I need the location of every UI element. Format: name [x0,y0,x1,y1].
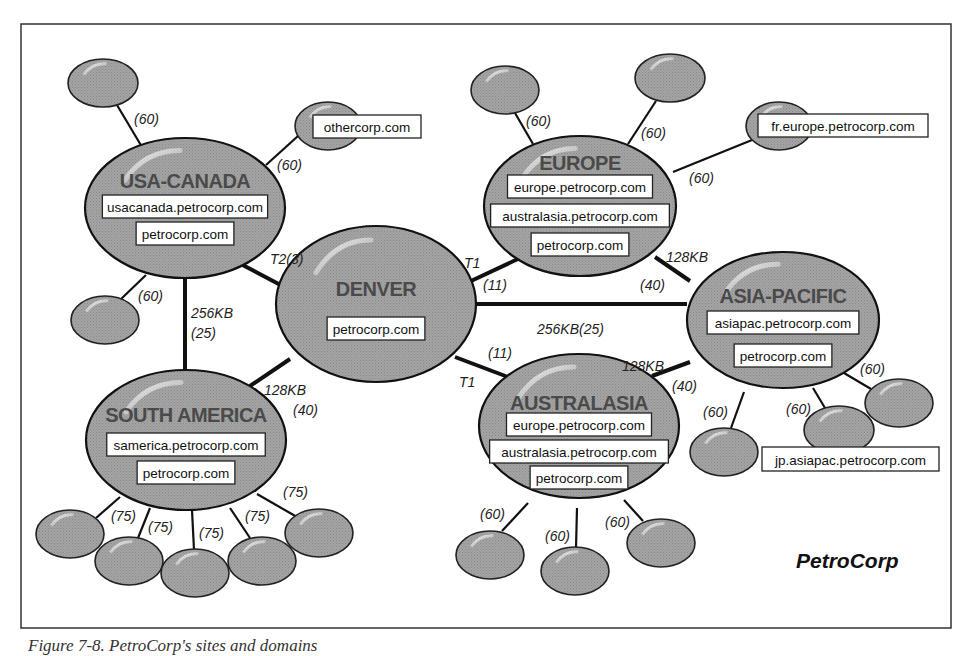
link-cost-label: (60) [277,157,302,173]
link-cost-label: (60) [134,111,159,127]
site-title: SOUTH AMERICA [105,404,267,426]
domain-label: jp.asiapac.petrocorp.com [774,453,926,468]
leaf-site [36,510,104,558]
domain-label: petrocorp.com [740,349,826,364]
domain-label: petrocorp.com [536,471,622,486]
link-cost-label: (60) [138,288,163,304]
link-cost-label: (60) [703,404,728,420]
leaf-site [95,537,163,585]
leaf-site [161,549,229,597]
leaf-node [228,537,296,585]
link-cost-label: 128KB [666,249,708,265]
domain-label: petrocorp.com [537,238,623,253]
leaf-node [627,519,695,567]
domain-label: petrocorp.com [333,322,419,337]
link-cost-label: (75) [283,484,308,500]
site-title: DENVER [336,278,417,300]
leaf-site [285,509,353,557]
link-cost-label: (75) [148,519,173,535]
site-title: ASIA-PACIFIC [720,285,847,307]
domain-label: petrocorp.com [143,466,229,481]
leaf-site [68,59,138,107]
site-asia-pacific: ASIA-PACIFICasiapac.petrocorp.competroco… [687,252,879,388]
link-cost-label: (11) [483,277,507,293]
site-title: USA-CANADA [120,170,251,192]
domain-label: fr.europe.petrocorp.com [771,119,914,134]
leaf-link [576,508,577,548]
link-cost-label: (11) [488,345,512,361]
domain-label: europe.petrocorp.com [513,418,645,433]
site-south-america: SOUTH AMERICAsamerica.petrocorp.competro… [86,370,286,510]
leaf-node [690,428,758,476]
link-cost-label: (60) [605,514,630,530]
site-denver: DENVERpetrocorp.com [276,226,476,382]
link-cost-label: (60) [641,125,666,141]
domain-label: asiapac.petrocorp.com [715,316,852,331]
domain-label: australasia.petrocorp.com [501,445,656,460]
leaf-site [865,379,933,427]
leaf-site [71,296,139,344]
link-cost-label: 256KB [190,305,233,321]
leaf-site [690,428,758,476]
link-cost-label: 128KB [264,382,306,398]
leaf-node [456,531,524,579]
link-cost-label: (60) [689,170,714,186]
leaf-node [635,54,705,102]
domain-label: australasia.petrocorp.com [502,209,657,224]
leaf-node [541,547,609,595]
link-cost-label: (75) [245,508,270,524]
site-title: EUROPE [539,152,621,174]
link-cost-label: (75) [111,508,136,524]
site-europe: EUROPEeurope.petrocorp.comaustralasia.pe… [484,136,676,276]
leaf-node [68,59,138,107]
link-cost-label: T2(3) [270,251,303,267]
leaf-node [95,537,163,585]
leaf-site [471,66,539,114]
link-cost-label: T1 [464,255,480,271]
leaf-site [627,519,695,567]
link-cost-label: 256KB(25) [536,321,604,337]
domain-label: europe.petrocorp.com [514,180,646,195]
leaf-site [635,54,705,102]
leaf-node [865,379,933,427]
leaf-node [471,66,539,114]
leaf-site [228,537,296,585]
figure-caption: Figure 7-8. PetroCorp's sites and domain… [28,636,317,656]
domain-label: petrocorp.com [142,227,228,242]
link-cost-label: (60) [526,113,551,129]
link-cost-label: (60) [786,401,811,417]
link-cost-label: (60) [860,361,885,377]
domain-label: samerica.petrocorp.com [114,438,259,453]
link-cost-label: (40) [293,402,318,418]
link-cost-label: (75) [199,525,224,541]
leaf-node [36,510,104,558]
leaf-site [541,547,609,595]
link-cost-label: T1 [459,374,475,390]
leaf-node [161,549,229,597]
link-cost-label: 128KB [622,358,664,374]
site-node [276,226,476,382]
site-title: AUSTRALASIA [510,392,648,414]
leaf-node [285,509,353,557]
link-cost-label: (40) [672,378,697,394]
link-cost-label: (60) [480,506,505,522]
link-cost-label: (60) [545,528,570,544]
domain-label: usacanada.petrocorp.com [107,200,263,215]
site-usa-canada: USA-CANADAusacanada.petrocorp.competroco… [85,138,285,278]
site-australasia: AUSTRALASIAeurope.petrocorp.comaustralas… [479,354,679,498]
leaf-node [71,296,139,344]
brand-logo: PetroCorp [796,549,899,572]
link-cost-label: (25) [191,325,216,341]
link-cost-label: (40) [640,277,665,293]
domain-label: othercorp.com [324,120,410,135]
leaf-site [456,531,524,579]
